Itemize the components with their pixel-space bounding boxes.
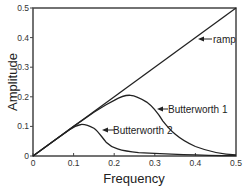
x-tick-label: 0.4 (189, 158, 201, 168)
x-tick-label: 0.3 (149, 158, 161, 168)
chart: 0 0.1 0.2 0.3 0.4 0.5 0 0.1 0.2 0.3 0.4 … (0, 0, 246, 190)
y-tick-label: 0.5 (17, 3, 29, 13)
annotation-butterworth-2: Butterworth 2 (102, 125, 173, 136)
x-tick-label: 0.5 (230, 158, 242, 168)
y-tick-label: 0 (24, 151, 29, 161)
annotation-label: ramp (213, 34, 236, 45)
x-tick-label: 0 (31, 158, 36, 168)
annotation-ramp: ramp (198, 34, 236, 45)
x-tick-label: 0.2 (108, 158, 120, 168)
annotation-label: Butterworth 2 (113, 125, 173, 136)
y-axis-title: Amplitude (5, 53, 20, 111)
y-tick-label: 0.1 (17, 121, 29, 131)
y-tick-label: 0.4 (17, 33, 29, 43)
annotation-butterworth-1: Butterworth 1 (157, 104, 228, 115)
x-axis-title: Frequency (103, 171, 165, 186)
x-tick-label: 0.1 (68, 158, 80, 168)
annotation-label: Butterworth 1 (168, 104, 228, 115)
